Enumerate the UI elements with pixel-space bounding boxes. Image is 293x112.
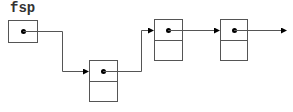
arrow-fsp-to-node-1 — [23, 32, 88, 72]
arrow-node-1-to-node-2 — [103, 31, 153, 72]
pointer-arrows — [0, 0, 293, 112]
